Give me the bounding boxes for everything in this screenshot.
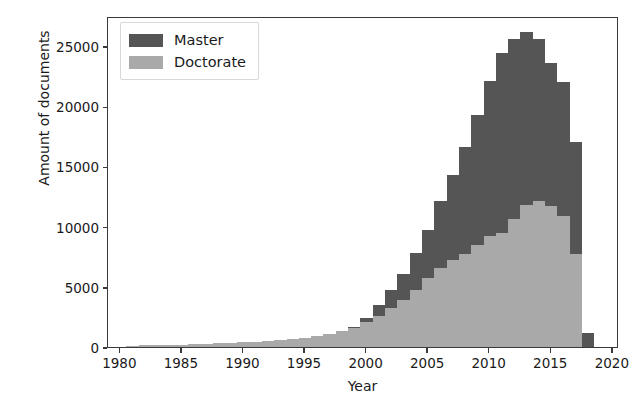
- bar-segment-master: [557, 82, 569, 216]
- bar-group: [176, 345, 188, 347]
- bar-segment-doctorate: [163, 345, 175, 347]
- bar-segment-doctorate: [151, 345, 163, 347]
- bar-segment-master: [385, 290, 397, 308]
- bar-group: [557, 82, 569, 347]
- bar-segment-master: [397, 274, 409, 300]
- bar-group: [151, 345, 163, 347]
- x-tick-mark: [303, 348, 304, 353]
- bar-segment-doctorate: [262, 341, 274, 347]
- bar-group: [410, 253, 422, 347]
- bar-segment-master: [373, 305, 385, 316]
- bar-group: [139, 345, 151, 347]
- bar-group: [287, 339, 299, 347]
- bar-segment-master: [533, 39, 545, 201]
- bar-group: [323, 334, 335, 347]
- bar-group: [163, 345, 175, 347]
- bar-group: [262, 341, 274, 347]
- bar-segment-master: [447, 175, 459, 260]
- bar-group: [496, 53, 508, 347]
- x-tick-label: 1980: [89, 355, 149, 371]
- x-tick-mark: [365, 348, 366, 353]
- y-axis-label: Amount of documents: [36, 0, 52, 228]
- bar-group: [459, 147, 471, 347]
- bar-group: [520, 32, 532, 347]
- bar-group: [213, 343, 225, 347]
- bar-segment-doctorate: [287, 339, 299, 347]
- bar-segment-doctorate: [213, 343, 225, 347]
- x-tick-mark: [550, 348, 551, 353]
- y-tick-label: 25000: [56, 38, 99, 56]
- bar-group: [274, 340, 286, 347]
- bar-group: [447, 175, 459, 347]
- bar-group: [360, 318, 372, 347]
- legend-swatch-master: [129, 34, 163, 47]
- x-tick-mark: [488, 348, 489, 353]
- bar-group: [225, 343, 237, 347]
- bar-group: [508, 39, 520, 347]
- bar-segment-doctorate: [557, 216, 569, 347]
- bar-segment-master: [434, 201, 446, 267]
- bar-group: [582, 333, 594, 347]
- bar-segment-master: [410, 253, 422, 290]
- x-tick-mark: [119, 348, 120, 353]
- bar-segment-doctorate: [311, 336, 323, 347]
- legend-item: Master: [129, 29, 246, 51]
- bar-segment-doctorate: [200, 344, 212, 347]
- x-tick-mark: [180, 348, 181, 353]
- bar-group: [250, 342, 262, 347]
- bar-segment-doctorate: [188, 344, 200, 347]
- bar-group: [200, 344, 212, 347]
- x-tick-label: 1990: [212, 355, 272, 371]
- x-tick-label: 2015: [520, 355, 580, 371]
- bar-group: [434, 201, 446, 347]
- figure: Amount of documents 05000100001500020000…: [0, 0, 636, 404]
- bar-segment-doctorate: [385, 308, 397, 347]
- bar-segment-doctorate: [348, 327, 360, 347]
- bar-segment-doctorate: [410, 290, 422, 347]
- x-tick-mark: [611, 348, 612, 353]
- bar-segment-doctorate: [570, 254, 582, 347]
- bar-segment-doctorate: [422, 278, 434, 347]
- bar-group: [311, 336, 323, 347]
- bar-segment-doctorate: [533, 201, 545, 347]
- bar-group: [545, 63, 557, 347]
- bar-segment-master: [496, 53, 508, 232]
- x-axis-label: Year: [107, 378, 618, 394]
- bar-group: [237, 342, 249, 347]
- bar-segment-doctorate: [373, 316, 385, 347]
- legend-swatch-doctorate: [129, 56, 163, 69]
- bar-group: [348, 327, 360, 347]
- x-tick-label: 2005: [397, 355, 457, 371]
- bar-segment-doctorate: [471, 245, 483, 347]
- bar-group: [471, 115, 483, 347]
- y-tick-label: 5000: [65, 279, 99, 297]
- bar-segment-doctorate: [274, 340, 286, 347]
- x-tick-mark: [426, 348, 427, 353]
- bar-segment-master: [459, 147, 471, 254]
- bar-segment-doctorate: [459, 254, 471, 347]
- bar-group: [397, 274, 409, 347]
- bar-segment-doctorate: [496, 233, 508, 347]
- bar-segment-doctorate: [520, 205, 532, 347]
- bar-segment-master: [582, 333, 594, 347]
- bar-segment-doctorate: [447, 260, 459, 347]
- legend-item: Doctorate: [129, 51, 246, 73]
- bar-segment-doctorate: [484, 236, 496, 347]
- x-tick-label: 2020: [582, 355, 636, 371]
- bar-group: [336, 331, 348, 347]
- bar-group: [533, 39, 545, 347]
- legend-label: Master: [174, 32, 224, 48]
- bar-segment-doctorate: [397, 300, 409, 347]
- bar-segment-doctorate: [139, 345, 151, 347]
- bar-segment-master: [570, 142, 582, 254]
- y-tick-label: 20000: [56, 98, 99, 116]
- bar-segment-doctorate: [250, 342, 262, 347]
- bar-segment-doctorate: [323, 334, 335, 347]
- bar-segment-master: [360, 318, 372, 322]
- bar-segment-master: [484, 81, 496, 236]
- bar-segment-master: [508, 39, 520, 220]
- bar-group: [373, 305, 385, 347]
- x-tick-label: 1985: [151, 355, 211, 371]
- bar-segment-master: [545, 63, 557, 206]
- x-tick-label: 2000: [336, 355, 396, 371]
